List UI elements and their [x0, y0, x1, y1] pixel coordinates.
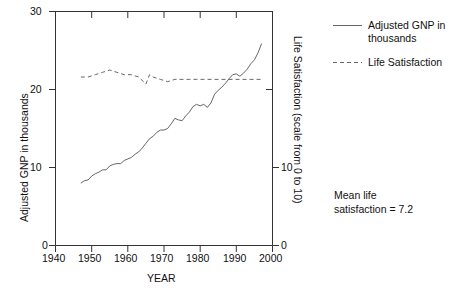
y-right-tick-label-0: 0 [281, 240, 287, 251]
legend-label-life-satisfaction: Life Satisfaction [368, 56, 442, 69]
x-tick-label-1990: 1990 [223, 253, 246, 264]
x-tick-label-1950: 1950 [78, 253, 101, 264]
y-left-tick-label-0: 0 [42, 240, 48, 251]
y-axis-left-title: Adjusted GNP in thousands [18, 93, 30, 222]
x-tick-label-1960: 1960 [114, 253, 137, 264]
x-axis-title: YEAR [147, 272, 176, 284]
note-mean-life-line2: satisfaction = 7.2 [334, 202, 413, 216]
x-tick-label-1970: 1970 [150, 253, 173, 264]
y-right-tick-label-10: 10 [281, 162, 293, 173]
legend-label-adjusted-gnp-line1: Adjusted GNP in [368, 19, 445, 32]
y-left-tick-label-20: 20 [30, 84, 42, 95]
legend-label-adjusted-gnp-line2: thousands [368, 32, 416, 45]
y-left-ticks [49, 12, 56, 246]
x-tick-label-2000: 2000 [259, 253, 282, 264]
y-axis-right-title: Life Satisfaction (scale from 0 to 10) [292, 36, 304, 204]
y-left-tick-label-10: 10 [30, 162, 42, 173]
y-left-tick-label-30: 30 [30, 6, 42, 17]
chart-figure: 30 20 10 0 10 0 1940 1950 1960 1970 1980… [0, 0, 450, 300]
x-tick-label-1940: 1940 [42, 253, 65, 264]
x-tick-label-1980: 1980 [186, 253, 209, 264]
note-mean-life-line1: Mean life [334, 188, 377, 202]
series-line-life-satisfaction [81, 70, 262, 84]
series-line-adjusted-gnp [81, 43, 262, 183]
x-ticks-top [92, 12, 237, 19]
